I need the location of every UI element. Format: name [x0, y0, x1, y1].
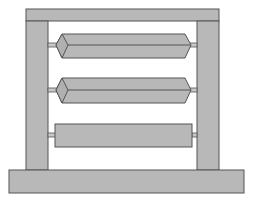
- hex-prism-roller-2: [48, 78, 197, 103]
- hex-prism-roller-1: [48, 34, 197, 58]
- roller-frame-diagram: [0, 0, 257, 204]
- top-bar: [26, 9, 219, 21]
- cylinder-roller: [48, 124, 197, 147]
- left-post: [26, 21, 48, 170]
- base: [9, 170, 244, 193]
- axle-right: [192, 133, 197, 137]
- right-post: [197, 21, 219, 170]
